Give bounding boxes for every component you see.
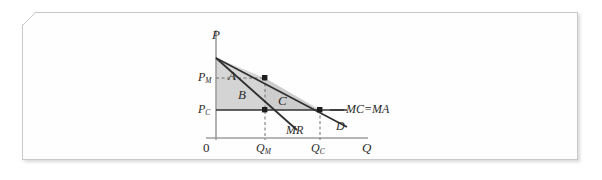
- price-axis-label: P: [212, 28, 220, 41]
- figure-page: P Q 0 PM PC QM QC A B C D MR MC=MA: [0, 0, 602, 180]
- marginal-cost-curve-label: MC=MA: [346, 103, 389, 115]
- monopoly-point-marker: [262, 75, 267, 80]
- quantity-axis-label: Q: [362, 141, 371, 154]
- origin-label: 0: [203, 141, 210, 154]
- price-tick-pm-sub: M: [205, 76, 211, 85]
- quantity-tick-qm-base: Q: [256, 141, 265, 155]
- price-tick-pc: PC: [198, 103, 210, 115]
- quantity-tick-qm: QM: [256, 142, 271, 154]
- diagram-canvas: [0, 0, 602, 180]
- monopoly-cost-point-marker: [262, 107, 267, 112]
- quantity-tick-qc: QC: [311, 142, 325, 154]
- demand-curve-label: D: [336, 120, 345, 132]
- quantity-tick-qm-sub: M: [265, 147, 271, 156]
- price-tick-pm: PM: [198, 71, 212, 83]
- region-b-label: B: [238, 88, 246, 101]
- region-c-label: C: [278, 94, 287, 107]
- marginal-revenue-curve-label: MR: [286, 124, 303, 136]
- region-a-label: A: [228, 69, 236, 82]
- region-c-shading: [265, 78, 320, 110]
- price-tick-pc-sub: C: [205, 108, 210, 117]
- quantity-tick-qc-sub: C: [320, 147, 325, 156]
- monopoly-diagram: P Q 0 PM PC QM QC A B C D MR MC=MA: [0, 0, 602, 180]
- competitive-point-marker: [317, 107, 322, 112]
- quantity-tick-qc-base: Q: [311, 141, 320, 155]
